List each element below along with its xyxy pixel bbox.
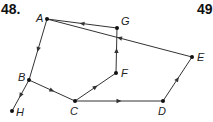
node-label-B: B	[18, 71, 25, 83]
node-D	[161, 99, 165, 103]
arrow-icon	[37, 46, 41, 51]
arrow-icon	[80, 22, 85, 26]
node-E	[190, 55, 194, 59]
arrow-icon	[92, 86, 97, 91]
node-label-G: G	[121, 15, 130, 27]
node-C	[73, 99, 77, 103]
arrow-icon	[117, 99, 122, 103]
node-label-D: D	[158, 105, 166, 117]
node-A	[45, 17, 49, 21]
arrow-icon	[174, 77, 179, 82]
node-label-H: H	[16, 106, 24, 118]
arrow-icon	[114, 48, 118, 53]
node-label-C: C	[70, 105, 78, 117]
node-label-E: E	[197, 51, 205, 63]
node-label-A: A	[35, 12, 43, 24]
node-H	[10, 109, 14, 113]
directed-graph: AGEFBCDH	[0, 0, 213, 122]
node-label-F: F	[121, 67, 129, 79]
node-F	[114, 71, 118, 75]
node-B	[27, 78, 31, 82]
node-G	[115, 26, 119, 30]
